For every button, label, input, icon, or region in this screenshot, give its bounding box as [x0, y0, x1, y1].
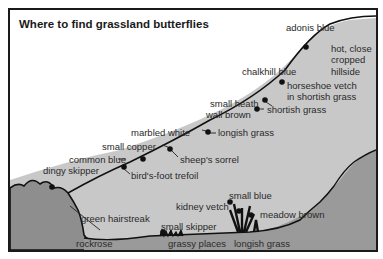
marker-bird-foot — [121, 164, 127, 170]
marker-marbled-white — [205, 129, 211, 135]
label-dingy-skipper: dingy skipper — [43, 165, 99, 176]
label-birds-foot-trefoil: bird's-foot trefoil — [131, 170, 198, 181]
label-in-shortish-grass: in shortish grass — [287, 91, 356, 102]
label-longish-grass-lower: longish grass — [234, 238, 290, 249]
label-hot-close: hot, close — [331, 43, 372, 54]
label-shortish-grass: shortish grass — [267, 104, 326, 115]
label-small-skipper: small skipper — [161, 221, 216, 232]
label-small-blue: small blue — [229, 190, 272, 201]
label-horseshoe-vetch: horseshoe vetch — [287, 80, 357, 91]
label-adonis-blue: adonis blue — [286, 22, 335, 33]
label-common-blue: common blue — [69, 154, 126, 165]
diagram-frame: Where to find grassland butterflies adon… — [8, 8, 378, 252]
marker-small-blue — [236, 208, 242, 214]
label-longish-grass-upper: longish grass — [218, 127, 274, 138]
label-grassy-places: grassy places — [168, 238, 226, 249]
label-kidney-vetch: kidney vetch — [176, 201, 229, 212]
label-green-hairstreak: green hairstreak — [81, 213, 150, 224]
marker-chalkhill-blue — [279, 79, 285, 85]
label-hillside: hillside — [331, 66, 360, 77]
label-small-heath: small heath — [210, 98, 259, 109]
label-marbled-white: marbled white — [131, 127, 190, 138]
marker-common-blue — [140, 156, 146, 162]
label-small-copper: small copper — [102, 141, 156, 152]
marker-small-copper — [167, 146, 173, 152]
marker-dingy-skipper — [49, 184, 55, 190]
marker-adonis-blue — [303, 44, 309, 50]
label-cropped: cropped — [331, 54, 365, 65]
label-chalkhill-blue: chalkhill blue — [242, 66, 296, 77]
label-rockrose: rockrose — [76, 238, 112, 249]
label-sheeps-sorrel: sheep's sorrel — [180, 154, 239, 165]
label-meadow-brown: meadow brown — [260, 209, 324, 220]
marker-meadow-brown — [248, 212, 254, 218]
diagram-title: Where to find grassland butterflies — [19, 18, 209, 30]
label-wall-brown: wall brown — [206, 109, 251, 120]
marker-small-heath — [262, 97, 268, 103]
